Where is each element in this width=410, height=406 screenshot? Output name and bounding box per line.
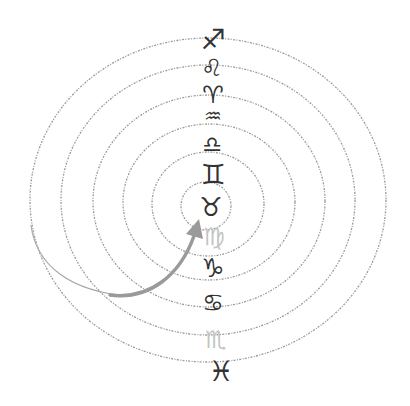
aquarius-icon: ♒︎ (204, 106, 222, 126)
taurus-icon: ♉︎ (199, 194, 222, 220)
arrow-shaft-thin (31, 225, 130, 296)
arrow-shaft-thick (110, 236, 194, 296)
sagittarius-icon: ♐︎ (200, 26, 225, 54)
arrow-head-icon (186, 219, 203, 239)
curved-arrow (31, 219, 203, 296)
leo-icon: ♌︎ (201, 56, 223, 80)
virgo-icon: ♍︎ (203, 225, 225, 249)
scorpio-icon: ♏︎ (205, 328, 227, 352)
pisces-icon: ♓︎ (208, 358, 233, 386)
gemini-icon: ♊︎ (200, 161, 225, 189)
libra-icon: ♎︎ (202, 134, 222, 156)
cancer-icon: ♋︎ (202, 291, 224, 315)
capricorn-icon: ♑︎ (201, 255, 224, 281)
